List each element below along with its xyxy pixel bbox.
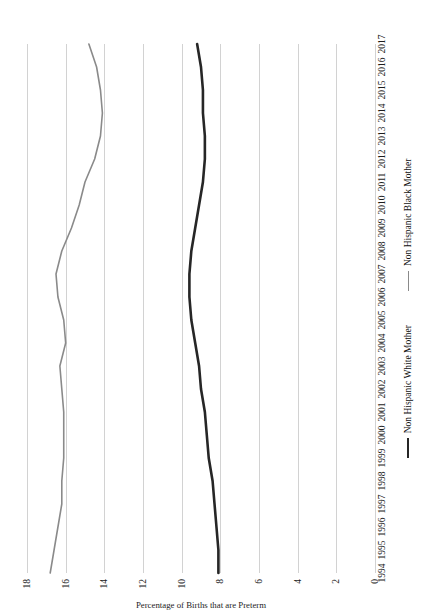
x-axis-tick-label: 1994 [377, 564, 387, 583]
y-axis-tick-label: 16 [61, 579, 71, 589]
y-axis-tick-label: 12 [138, 579, 148, 589]
y-axis-tick-label: 6 [254, 579, 264, 584]
x-axis-tick-label: 2003 [377, 357, 387, 376]
gridline [375, 44, 376, 573]
x-axis-tick-label: 1997 [377, 495, 387, 514]
y-axis-tick-label: 18 [22, 579, 32, 589]
x-axis-tick-label: 2015 [377, 81, 387, 100]
chart-legend: Non Hispanic White Mother Non Hispanic B… [398, 44, 418, 573]
y-axis-title-text: Percentage of Births that are Preterm [136, 600, 266, 610]
x-axis-tick-label: 2008 [377, 242, 387, 261]
x-axis-tick-label: 1996 [377, 518, 387, 537]
x-axis-tick-label: 2017 [377, 35, 387, 54]
x-axis-tick-label: 2006 [377, 288, 387, 307]
x-axis-tick-label: 2004 [377, 334, 387, 353]
legend-label: Non Hispanic White Mother [403, 325, 413, 433]
x-axis-tick-label: 2007 [377, 265, 387, 284]
legend-item-black-mother: Non Hispanic Black Mother [403, 159, 413, 291]
x-axis-tick-label: 2002 [377, 380, 387, 399]
x-axis-tick-label: 2001 [377, 403, 387, 422]
x-axis-tick-labels: 1994199519961997199819992000200120022003… [377, 44, 393, 573]
x-axis-tick-label: 2012 [377, 150, 387, 169]
x-axis-tick-label: 2011 [377, 173, 387, 192]
x-axis-tick-label: 2014 [377, 104, 387, 123]
y-axis-tick-label: 10 [177, 579, 187, 589]
x-axis-tick-label: 2009 [377, 219, 387, 238]
y-axis-tick-label: 2 [331, 579, 341, 584]
plot-area: 024681012141618 [27, 44, 375, 573]
x-axis-tick-label: 1999 [377, 449, 387, 468]
x-axis-tick-label: 2000 [377, 426, 387, 445]
line-dark-swatch-icon [407, 438, 409, 458]
x-axis-tick-label: 2005 [377, 311, 387, 330]
line-gray-swatch-icon [408, 271, 409, 291]
x-axis-tick-label: 2010 [377, 196, 387, 215]
series-line [50, 44, 102, 573]
y-axis-tick-label: 14 [99, 579, 109, 589]
x-axis-tick-label: 2013 [377, 127, 387, 146]
y-axis-title: Percentage of Births that are Preterm [27, 599, 375, 611]
y-axis-tick-label: 8 [215, 579, 225, 584]
series-line [189, 44, 218, 573]
y-axis-tick-label: 4 [293, 579, 303, 584]
x-axis-tick-label: 1995 [377, 541, 387, 560]
series-lines [27, 44, 375, 573]
x-axis-tick-label: 2016 [377, 58, 387, 77]
legend-item-white-mother: Non Hispanic White Mother [403, 325, 413, 458]
legend-label: Non Hispanic Black Mother [403, 159, 413, 266]
x-axis-tick-label: 1998 [377, 472, 387, 491]
